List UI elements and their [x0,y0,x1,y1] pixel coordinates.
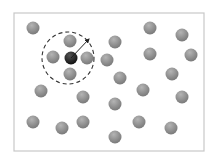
particle [27,116,40,129]
particle [176,91,189,104]
particle [176,29,189,42]
particle [27,22,40,35]
particle [109,36,122,49]
particle [144,48,157,61]
particle [144,22,157,35]
particle [64,35,77,48]
particle [81,52,94,65]
particle [101,54,114,67]
particle [77,91,90,104]
particle [64,68,77,81]
particle [109,98,122,111]
particle [133,116,146,129]
particle [77,116,90,129]
particle [137,84,150,97]
particle [109,131,122,144]
particle [35,85,48,98]
particle [56,122,69,135]
particle [47,51,60,64]
particle [114,72,127,85]
particles-group [27,22,198,144]
particle [165,122,178,135]
particle-diagram [0,0,218,160]
particle [166,68,179,81]
particle [185,49,198,62]
